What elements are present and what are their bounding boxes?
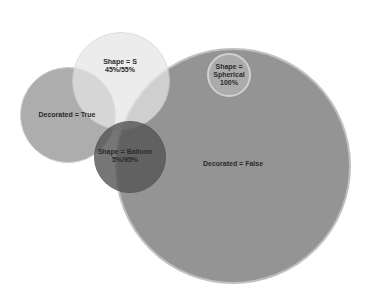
label-shape-balloon-title: Shape = Balloon	[98, 148, 153, 156]
label-shape-balloon-value: 5%/95%	[98, 156, 153, 164]
label-shape-s-title: Shape = S	[103, 58, 137, 66]
label-shape-spherical-value: 100%	[213, 79, 245, 87]
label-shape-s-value: 45%/55%	[103, 66, 137, 74]
label-decorated-true: Decorated = True	[39, 111, 96, 119]
label-decorated-false: Decorated = False	[203, 160, 263, 168]
label-shape-spherical-title: Shape =	[213, 63, 245, 71]
label-shape-spherical: Shape = Spherical 100%	[213, 63, 245, 87]
label-shape-balloon: Shape = Balloon 5%/95%	[98, 148, 153, 164]
label-shape-s: Shape = S 45%/55%	[103, 58, 137, 74]
label-shape-spherical-name: Spherical	[213, 71, 245, 79]
